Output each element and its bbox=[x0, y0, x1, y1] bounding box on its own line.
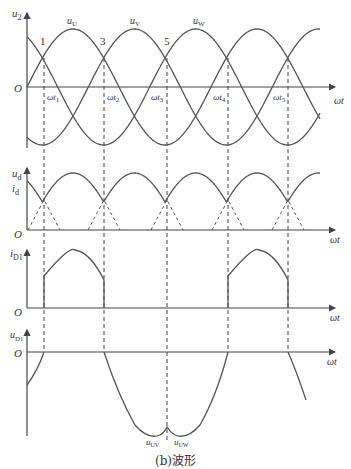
point-label-1: 1 bbox=[40, 35, 46, 47]
ud-y-label: ud bbox=[12, 167, 22, 182]
tick-wt2: ωt2 bbox=[107, 92, 120, 104]
label-uU: uU bbox=[67, 15, 77, 28]
u2-y-label: u2 bbox=[12, 7, 22, 22]
curve-ud-dashed bbox=[28, 200, 304, 230]
graph-u2: u2 O ωt uU uV uW 1 3 5 ωt1 ωt2 ωt3 ωt4 ω… bbox=[12, 7, 344, 148]
uD1-x-label: ωt bbox=[327, 356, 337, 367]
label-uW: uW bbox=[193, 15, 205, 28]
u2-x-label: ωt bbox=[334, 95, 344, 106]
label-uV: uV bbox=[130, 15, 140, 28]
ud-x-label: ωt bbox=[330, 234, 340, 245]
uD1-y-label: uD1 bbox=[10, 329, 24, 343]
graph-iD1: iD1 O ωt bbox=[10, 247, 340, 323]
commutation-dashed-lines bbox=[44, 58, 288, 440]
tick-wt4: ωt4 bbox=[213, 92, 226, 104]
point-label-3: 3 bbox=[100, 35, 106, 47]
label-uUW: uUW bbox=[174, 437, 189, 448]
iD1-x-label: ωt bbox=[330, 312, 340, 323]
waveform-diagram: u2 O ωt uU uV uW 1 3 5 ωt1 ωt2 ωt3 ωt4 ω… bbox=[0, 0, 351, 469]
id-y-label: id bbox=[12, 182, 19, 197]
label-uUV: uUV bbox=[146, 437, 160, 448]
curve-iD1-pulse-1 bbox=[44, 249, 104, 308]
iD1-y-label: iD1 bbox=[10, 247, 23, 262]
u2-origin-label: O bbox=[14, 82, 22, 94]
graph-ud-id: ud id O ωt bbox=[12, 167, 340, 245]
ud-origin-label: O bbox=[14, 228, 22, 240]
figure-caption: (b)波形 bbox=[0, 451, 351, 468]
uD1-origin-label: O bbox=[14, 347, 22, 359]
tick-wt5: ωt5 bbox=[273, 92, 286, 104]
tick-wt3: ωt3 bbox=[151, 92, 164, 104]
curve-iD1-pulse-2 bbox=[228, 249, 288, 308]
iD1-origin-label: O bbox=[14, 306, 22, 318]
curve-ud-envelope bbox=[27, 173, 320, 202]
point-label-5: 5 bbox=[164, 35, 170, 47]
tick-wt1: ωt1 bbox=[47, 92, 60, 104]
